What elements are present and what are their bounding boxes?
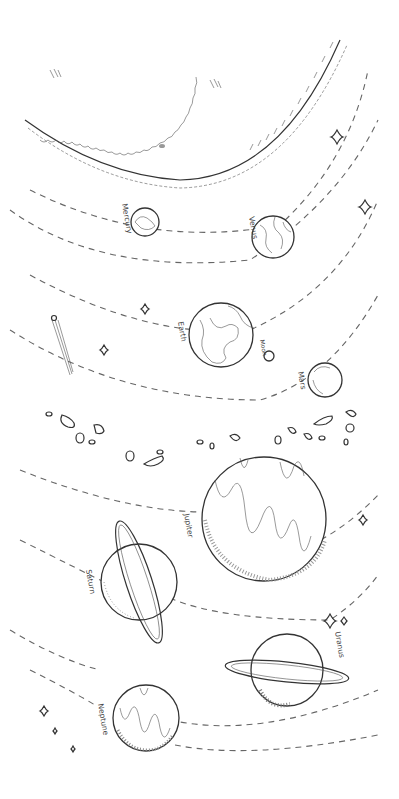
solar-system-illustration: Mercury Venus Earth Moon Mars <box>0 0 399 799</box>
label-venus: Venus <box>247 216 260 240</box>
star-icon <box>71 746 75 752</box>
planet-neptune: Neptune <box>96 685 179 751</box>
label-mars: Mars <box>296 371 308 390</box>
label-uranus: Uranus <box>333 631 346 659</box>
comet <box>52 316 74 376</box>
star-icon <box>40 706 48 716</box>
planet-venus: Venus <box>247 216 294 258</box>
star-icon <box>359 515 367 525</box>
star-icon <box>359 200 371 214</box>
label-neptune: Neptune <box>96 703 110 737</box>
label-jupiter: Jupiter <box>182 512 195 540</box>
star-icon <box>141 304 149 314</box>
planet-mercury: Mercury <box>120 203 159 236</box>
star-icon <box>100 345 108 355</box>
planet-uranus: Uranus <box>224 631 349 706</box>
planet-saturn: Saturn <box>84 517 177 647</box>
label-mercury: Mercury <box>120 203 134 235</box>
moon: Moon <box>259 339 274 361</box>
asteroid-belt <box>46 410 356 466</box>
planet-earth: Earth <box>176 303 254 367</box>
label-moon: Moon <box>259 339 269 356</box>
label-earth: Earth <box>176 321 188 343</box>
star-icon <box>331 130 343 144</box>
star-icon <box>341 617 347 625</box>
planet-jupiter: Jupiter <box>182 457 326 581</box>
orbits <box>10 70 378 751</box>
star-icon <box>53 728 57 734</box>
planet-mars: Mars <box>296 363 342 397</box>
star-icon <box>324 614 336 628</box>
sun <box>25 40 347 188</box>
label-saturn: Saturn <box>84 569 97 595</box>
